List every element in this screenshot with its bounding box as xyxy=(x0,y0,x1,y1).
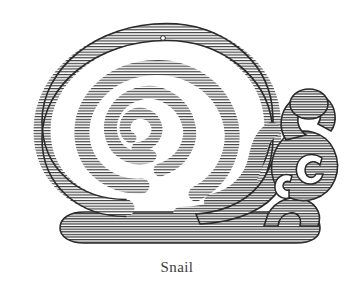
eye-stalk-tip xyxy=(290,89,328,119)
figure-caption: Snail xyxy=(0,258,354,276)
snail-artwork xyxy=(0,18,354,246)
snail-figure: Snail xyxy=(0,0,354,291)
snail-drawing xyxy=(0,18,354,246)
shell-aperture-dot xyxy=(161,36,166,41)
